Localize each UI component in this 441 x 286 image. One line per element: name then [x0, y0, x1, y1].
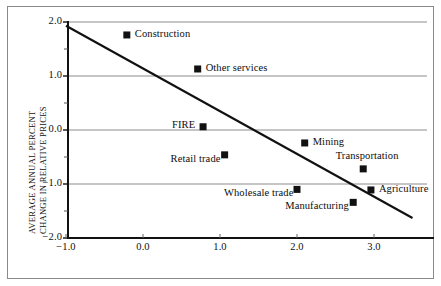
data-point-marker[interactable] [123, 31, 130, 38]
data-point-marker[interactable] [367, 186, 374, 193]
y-tick-label: −1.0 [32, 177, 62, 188]
data-point-marker[interactable] [200, 123, 207, 130]
data-point-label: Retail trade [171, 153, 221, 164]
data-point-marker[interactable] [301, 139, 308, 146]
data-point-marker[interactable] [294, 186, 301, 193]
x-tick-label: 3.0 [349, 241, 399, 252]
data-point-label: Other services [206, 62, 268, 73]
data-point-label: Construction [135, 28, 190, 39]
data-markers [123, 31, 374, 205]
data-point-marker[interactable] [360, 165, 367, 172]
data-point-label: Mining [313, 136, 345, 147]
x-tick-label: 2.0 [272, 241, 322, 252]
data-point-marker[interactable] [350, 199, 357, 206]
chart-figure: AVERAGE ANNUAL PERCENT CHANGE IN RELATIV… [0, 0, 441, 286]
data-point-label: Agriculture [379, 183, 429, 194]
axes [67, 21, 434, 238]
x-tick-label: 1.0 [195, 241, 245, 252]
x-tick-label: 0.0 [118, 241, 168, 252]
data-point-label: Manufacturing [285, 200, 349, 211]
data-point-label: FIRE [172, 119, 195, 130]
data-point-label: Wholesale trade [224, 187, 293, 198]
y-tick-label: 0.0 [32, 123, 62, 134]
data-point-label: Transportation [336, 150, 399, 161]
y-tick-label: 1.0 [32, 69, 62, 80]
x-tick-label: −1.0 [41, 241, 91, 252]
data-point-marker[interactable] [221, 151, 228, 158]
y-tick-label: 2.0 [32, 15, 62, 26]
data-point-marker[interactable] [194, 65, 201, 72]
